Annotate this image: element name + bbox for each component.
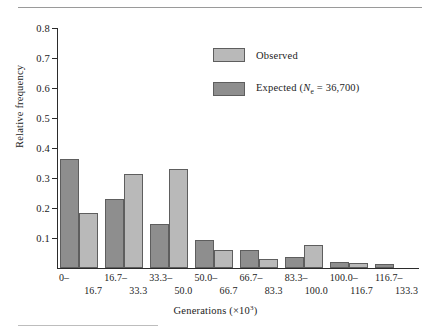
bar-expected bbox=[150, 224, 169, 268]
bar-observed bbox=[169, 169, 188, 268]
x-category-label: 16.7–33.3 bbox=[104, 272, 147, 296]
x-category-label: 116.7–133.3 bbox=[375, 272, 418, 296]
figure-panel: Relative frequency 0.80.70.60.50.40.30.2… bbox=[0, 0, 431, 330]
y-tick-mark bbox=[52, 148, 57, 149]
x-axis-title-text: Generations (×103) bbox=[174, 305, 258, 316]
x-category-label: 0–16.7 bbox=[59, 272, 102, 296]
x-category-label: 50.0–66.7 bbox=[194, 272, 237, 296]
y-tick-mark bbox=[52, 118, 57, 119]
y-tick-label: 0.3 bbox=[36, 173, 50, 184]
bar-expected bbox=[240, 250, 259, 268]
y-tick-label: 0.8 bbox=[36, 23, 50, 34]
legend-item-observed: Observed bbox=[213, 47, 359, 63]
x-category-upper-bound: 33.3 bbox=[104, 285, 147, 296]
bar-expected bbox=[60, 159, 79, 269]
top-divider-rule bbox=[18, 7, 422, 8]
legend-label-expected-prefix: Expected ( bbox=[256, 82, 303, 93]
legend-item-expected: Expected (Ne = 36,700) bbox=[213, 81, 359, 97]
x-category-upper-bound: 66.7 bbox=[194, 285, 237, 296]
bar-observed bbox=[349, 263, 368, 268]
legend-label-expected: Expected (Ne = 36,700) bbox=[256, 82, 359, 96]
bar-group bbox=[148, 28, 193, 268]
x-category-lower-bound: 100.0– bbox=[330, 272, 373, 283]
x-category-lower-bound: 83.3– bbox=[285, 272, 328, 283]
x-category-lower-bound: 66.7– bbox=[240, 272, 283, 283]
y-tick-label: 0.2 bbox=[36, 203, 50, 214]
bar-expected bbox=[105, 199, 124, 268]
x-category-upper-bound: 100.0 bbox=[285, 285, 328, 296]
x-category-label: 33.3–50.0 bbox=[149, 272, 192, 296]
y-tick-mark bbox=[52, 178, 57, 179]
bar-expected bbox=[375, 264, 394, 269]
legend-label-expected-suffix: = 36,700) bbox=[314, 82, 360, 93]
y-tick-label: 0.1 bbox=[36, 233, 50, 244]
y-tick-label: 0.6 bbox=[36, 83, 50, 94]
bar-group bbox=[374, 28, 419, 268]
legend-label-observed: Observed bbox=[256, 50, 298, 61]
bar-observed bbox=[259, 259, 278, 268]
x-category-lower-bound: 16.7– bbox=[104, 272, 147, 283]
x-category-upper-bound: 133.3 bbox=[375, 285, 418, 296]
x-category-upper-bound: 116.7 bbox=[330, 285, 373, 296]
bar-observed bbox=[124, 174, 143, 268]
bar-group bbox=[58, 28, 103, 268]
legend-swatch-observed-icon bbox=[213, 48, 245, 62]
y-tick-mark bbox=[52, 28, 57, 29]
x-axis-title: Generations (×103) bbox=[0, 303, 431, 316]
x-category-label: 83.3–100.0 bbox=[285, 272, 328, 296]
y-tick-label: 0.5 bbox=[36, 113, 50, 124]
x-category-lower-bound: 33.3– bbox=[149, 272, 192, 283]
bar-expected bbox=[330, 262, 349, 268]
x-axis-line bbox=[57, 268, 419, 269]
chart-legend: Observed Expected (Ne = 36,700) bbox=[213, 47, 359, 115]
x-category-upper-bound: 50.0 bbox=[149, 285, 192, 296]
legend-swatch-expected-icon bbox=[213, 82, 245, 96]
x-category-upper-bound: 16.7 bbox=[59, 285, 102, 296]
bar-observed bbox=[214, 250, 233, 268]
bar-group bbox=[103, 28, 148, 268]
x-category-upper-bound: 83.3 bbox=[240, 285, 283, 296]
x-category-lower-bound: 50.0– bbox=[194, 272, 237, 283]
bar-expected bbox=[195, 240, 214, 268]
bar-observed bbox=[79, 213, 98, 268]
y-tick-label: 0.7 bbox=[36, 53, 50, 64]
x-category-lower-bound: 116.7– bbox=[375, 272, 418, 283]
y-tick-label: 0.4 bbox=[36, 143, 50, 154]
y-tick-mark bbox=[52, 208, 57, 209]
x-category-label: 100.0–116.7 bbox=[330, 272, 373, 296]
x-category-lower-bound: 0– bbox=[59, 272, 102, 283]
bar-expected bbox=[285, 257, 304, 268]
bar-observed bbox=[304, 245, 323, 268]
y-tick-mark bbox=[52, 88, 57, 89]
y-axis-title: Relative frequency bbox=[14, 65, 25, 148]
y-tick-mark bbox=[52, 58, 57, 59]
bottom-divider-rule bbox=[18, 325, 158, 326]
y-tick-mark bbox=[52, 238, 57, 239]
x-category-label: 66.7–83.3 bbox=[240, 272, 283, 296]
